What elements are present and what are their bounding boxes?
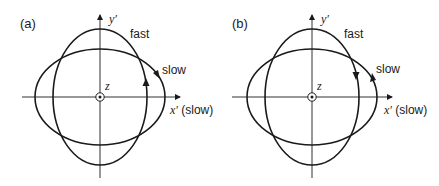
panel-tag: (b)	[232, 16, 248, 31]
fast-label: fast	[344, 27, 364, 41]
panel-tag: (a)	[20, 16, 36, 31]
slow-label: slow	[162, 63, 186, 77]
panel-a: (a) y′ fast slow z x′ (slow)	[20, 12, 213, 178]
x-axis-label: x′ (slow)	[169, 103, 213, 117]
panel-b: (b) y′ fast slow z x′ (slow)	[232, 12, 427, 178]
y-axis-label: y′	[108, 12, 117, 26]
figure: (a) y′ fast slow z x′ (slow) (b)	[0, 0, 439, 186]
slow-label: slow	[376, 62, 400, 76]
fast-label: fast	[130, 27, 150, 41]
z-axis-label: z	[316, 79, 322, 93]
fast-direction-arrow-icon	[143, 78, 150, 86]
fast-direction-arrow-icon	[353, 72, 360, 80]
z-dot-icon	[311, 96, 314, 99]
y-axis-label: y′	[320, 12, 329, 26]
z-dot-icon	[99, 96, 102, 99]
x-axis-label: x′ (slow)	[383, 103, 427, 117]
z-axis-label: z	[104, 79, 110, 93]
